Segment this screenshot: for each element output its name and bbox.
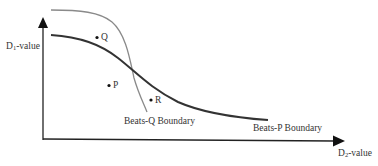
beats-p-boundary-curve <box>51 35 268 120</box>
point-r-label: R <box>155 96 161 106</box>
point-r-marker <box>149 98 152 101</box>
diagram-canvas <box>0 0 378 166</box>
x-axis <box>43 139 334 141</box>
x-axis-arrow-icon <box>333 136 345 147</box>
beats-q-boundary-curve <box>51 10 147 112</box>
x-axis-label: D2-value <box>338 149 372 159</box>
point-q-marker <box>95 36 98 39</box>
point-p-label: P <box>113 81 118 91</box>
beats-q-boundary-label: Beats-Q Boundary <box>124 117 195 127</box>
point-q-label: Q <box>101 33 108 43</box>
point-p-marker <box>107 84 110 87</box>
y-axis-arrow-icon <box>38 17 48 28</box>
beats-p-boundary-label: Beats-P Boundary <box>253 124 322 134</box>
y-axis-label: D1-value <box>6 42 40 52</box>
